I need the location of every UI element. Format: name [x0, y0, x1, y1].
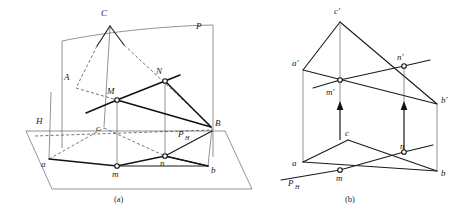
label-trace-ph-b: P H	[287, 178, 300, 190]
label-vertex-b-top: b	[441, 168, 446, 178]
label-vertex-B-upper: B	[215, 118, 221, 128]
label-plane-p: P	[195, 21, 202, 31]
projector-a-left	[49, 92, 51, 159]
label-vertex-c-front: c'	[334, 6, 341, 16]
label-point-m-top: m	[336, 173, 343, 183]
edge-ab-top	[303, 162, 437, 171]
label-point-n-top: n	[400, 141, 405, 151]
caption-b: (b)	[345, 194, 355, 204]
edge-ac-top	[303, 140, 348, 162]
label-point-m-lower: m	[112, 169, 119, 179]
node-m-front	[338, 78, 343, 83]
label-vertex-A-upper: A	[63, 72, 70, 82]
edge-MN-visible	[117, 81, 165, 100]
plane-p-top-curve	[62, 25, 213, 41]
projector-b	[208, 128, 212, 166]
label-vertex-c-lower: c	[96, 123, 100, 133]
projector-c	[104, 27, 110, 127]
label-vertex-c-top: c	[345, 128, 349, 138]
svg-text:H: H	[294, 184, 300, 190]
label-point-N-upper: N	[155, 66, 163, 76]
label-vertex-a-lower: a	[41, 159, 46, 169]
svg-text:H: H	[184, 135, 190, 141]
panel-a-pictorial: P H C A B M N a b c m n P H (a)	[26, 8, 252, 204]
svg-text:P: P	[177, 129, 184, 139]
svg-text:P: P	[287, 178, 294, 188]
panel-b-orthographic: c' a' b' m' n' a b c m n P H (b)	[281, 6, 449, 204]
figure-root: P H C A B M N a b c m n P H (a)	[0, 0, 464, 217]
label-vertex-b-front: b'	[441, 95, 449, 105]
label-vertex-b-lower: b	[211, 165, 216, 175]
technical-drawing-svg: P H C A B M N a b c m n P H (a)	[0, 0, 464, 217]
line-MN-extension-left	[86, 100, 117, 113]
node-N-upper	[163, 79, 168, 84]
label-vertex-a-front: a'	[292, 58, 300, 68]
node-m-lower	[115, 164, 120, 169]
caption-a: (a)	[114, 194, 124, 204]
label-point-m-front: m'	[326, 87, 335, 97]
projection-arrow-m	[337, 101, 344, 140]
edge-ac-front	[303, 22, 340, 70]
edge-CA-dashed	[76, 46, 97, 88]
label-vertex-C-upper: C	[101, 8, 108, 18]
node-n-front	[402, 64, 407, 69]
node-M-upper	[115, 98, 120, 103]
edge-nb-lower	[165, 156, 208, 166]
node-m-top	[338, 168, 343, 173]
label-point-n-lower: n	[160, 158, 165, 168]
label-point-M-upper: M	[106, 86, 115, 96]
label-point-n-front: n'	[397, 52, 405, 62]
label-vertex-a-top: a	[292, 158, 297, 168]
label-plane-h: H	[35, 116, 43, 126]
edge-C-left-solid	[97, 26, 110, 46]
edge-C-right-solid	[110, 26, 124, 45]
